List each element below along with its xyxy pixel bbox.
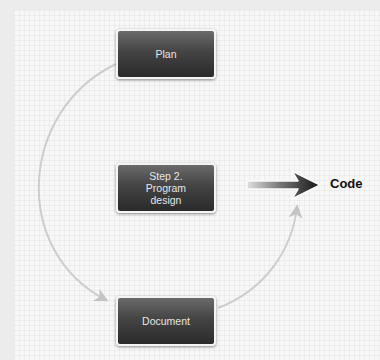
node-document[interactable]: Document (116, 296, 216, 346)
output-code-label: Code (330, 176, 363, 191)
arc-plan-to-document (39, 64, 116, 300)
arc-document-to-output (218, 207, 297, 308)
node-program-design-label: Step 2. Program design (146, 170, 186, 206)
output-arrow (247, 171, 320, 199)
node-program-design[interactable]: Step 2. Program design (116, 163, 216, 213)
node-plan[interactable]: Plan (116, 29, 216, 79)
node-document-label: Document (142, 315, 190, 327)
node-plan-label: Plan (155, 48, 176, 60)
